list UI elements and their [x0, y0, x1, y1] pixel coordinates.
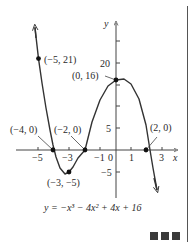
label-point-2-0: (2, 0) [150, 122, 172, 134]
point-2-0 [144, 148, 149, 153]
label-point-neg3-neg5: (−3, −5) [47, 177, 80, 189]
label-point-neg4-0: (−4, 0) [10, 124, 37, 136]
leader-lines [38, 76, 157, 150]
x-tick-label-0: 0 [108, 152, 113, 163]
point-neg2-0 [83, 148, 88, 153]
y-tick-label-20: 20 [100, 58, 110, 69]
page-divider [187, 6, 188, 242]
y-tick-label-neg5: −5 [101, 167, 112, 178]
label-point-neg2-0: (−2, 0) [54, 124, 81, 136]
equation-label: y = −x³ − 4x² + 4x + 16 [43, 202, 142, 213]
label-point-neg5-21: (−5, 21) [44, 54, 76, 66]
point-0-16 [114, 78, 119, 83]
point-neg3-neg5 [67, 170, 72, 175]
square-marker [150, 232, 158, 240]
curve-arrow-top [35, 27, 36, 38]
point-neg5-21 [36, 56, 41, 61]
square-marker [172, 232, 180, 240]
label-point-0-16: (0, 16) [72, 70, 99, 82]
section-end-marker [150, 232, 180, 240]
y-tick-label-5: 5 [106, 123, 111, 134]
cubic-function-graph: −5 −3 −1 0 1 3 x 20 5 −5 y (−5, 21) (0, … [0, 0, 193, 245]
x-tick-label-neg1: −1 [94, 152, 105, 163]
y-ticks [116, 41, 120, 172]
x-axis-label: x [172, 152, 178, 163]
point-neg4-0 [51, 148, 56, 153]
x-tick-label-1: 1 [129, 152, 134, 163]
x-tick-label-3: 3 [159, 152, 164, 163]
x-tick-label-neg3: −3 [62, 152, 73, 163]
square-marker [161, 232, 169, 240]
x-tick-label-neg5: −5 [32, 152, 43, 163]
y-axis-label: y [103, 18, 109, 29]
function-curve [35, 28, 157, 190]
